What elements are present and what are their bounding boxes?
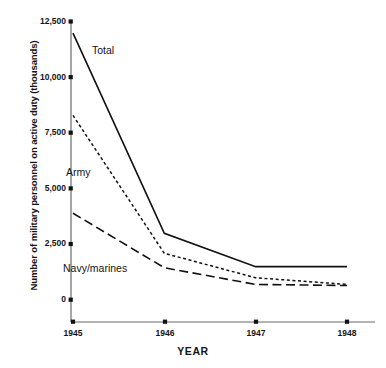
x-axis-title: YEAR — [0, 345, 386, 357]
y-tick-2500: 2,500 — [14, 239, 66, 249]
y-tick-0: 0 — [14, 295, 66, 305]
series-annotation-total: Total — [92, 44, 114, 56]
y-tick-label: 5,000 — [20, 184, 66, 193]
series-annotation-army: Army — [66, 166, 91, 178]
y-tick-label: 12,500 — [20, 17, 66, 26]
y-tick-7500: 7,500 — [14, 128, 66, 138]
series-annotation-navy-marines: Navy/marines — [63, 262, 127, 274]
y-tick-label: 0 — [20, 295, 66, 304]
y-tick-label: 7,500 — [20, 128, 66, 137]
x-tick-label-1947: 1947 — [236, 328, 276, 338]
x-tick-label-1948: 1948 — [327, 328, 367, 338]
x-tick-label-1945: 1945 — [53, 328, 93, 338]
y-tick-5000: 5,000 — [14, 184, 66, 194]
y-tick-label: 2,500 — [20, 239, 66, 248]
y-axis-title: Number of military personnel on active d… — [28, 21, 39, 311]
y-tick-10000: 10,000 — [14, 73, 66, 83]
series-line-total — [73, 33, 347, 267]
y-tick-12500: 12,500 — [14, 17, 66, 27]
chart-container: Number of military personnel on active d… — [0, 0, 386, 368]
x-tick-label-1946: 1946 — [145, 328, 185, 338]
y-tick-label: 10,000 — [20, 73, 66, 82]
series-line-army — [73, 115, 347, 284]
